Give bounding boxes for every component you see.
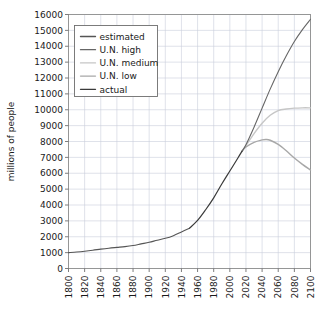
chart-canvas: 0100020003000400050006000700080009000100… — [0, 0, 324, 318]
series-line-u-n-medium — [242, 108, 311, 152]
x-tick-label: 1820 — [80, 275, 90, 298]
x-axis-tick-labels: 1800182018401860188019001920194019601980… — [64, 275, 316, 298]
x-tick-label: 2020 — [241, 275, 251, 298]
y-tick-label: 8000 — [40, 137, 63, 147]
series-line-u-n-high — [242, 19, 311, 151]
x-tick-label: 1940 — [177, 275, 187, 298]
y-tick-label: 4000 — [40, 200, 63, 210]
y-tick-label: 15000 — [34, 26, 63, 36]
y-tick-label: 2000 — [40, 232, 63, 242]
y-tick-label: 10000 — [34, 105, 63, 115]
y-tick-label: 3000 — [40, 216, 63, 226]
y-axis-title-text: millions of people — [6, 101, 16, 181]
y-tick-label: 5000 — [40, 184, 63, 194]
x-tick-label: 2100 — [306, 275, 316, 298]
x-tick-label: 1800 — [64, 275, 74, 298]
x-tick-label: 1980 — [209, 275, 219, 298]
legend-label-u-n-high: U.N. high — [100, 45, 142, 55]
legend-label-estimated: estimated — [100, 32, 145, 42]
y-tick-label: 7000 — [40, 153, 63, 163]
y-axis-title: millions of people — [6, 101, 16, 181]
y-tick-label: 6000 — [40, 168, 63, 178]
x-tick-label: 2060 — [273, 275, 283, 298]
y-tick-label: 9000 — [40, 121, 63, 131]
y-tick-label: 12000 — [34, 73, 63, 83]
x-tick-label: 1840 — [96, 275, 106, 298]
x-tick-label: 1860 — [112, 275, 122, 298]
x-tick-label: 2000 — [225, 275, 235, 298]
series-line-estimated — [69, 228, 190, 252]
y-tick-label: 14000 — [34, 41, 63, 51]
y-tick-label: 11000 — [34, 89, 63, 99]
x-tick-label: 1880 — [128, 275, 138, 298]
legend-label-actual: actual — [100, 85, 128, 95]
y-tick-label: 16000 — [34, 10, 63, 20]
legend-label-u-n-low: U.N. low — [100, 71, 137, 81]
x-tick-label: 2080 — [290, 275, 300, 298]
y-tick-label: 0 — [57, 264, 63, 274]
legend-label-u-n-medium: U.N. medium — [100, 58, 159, 68]
population-projection-chart: 0100020003000400050006000700080009000100… — [0, 0, 324, 318]
x-tick-label: 1960 — [193, 275, 203, 298]
y-axis-tick-labels: 0100020003000400050006000700080009000100… — [34, 10, 63, 274]
series-line-u-n-low — [242, 139, 311, 170]
y-tick-label: 13000 — [34, 57, 63, 67]
x-tick-label: 1920 — [161, 275, 171, 298]
chart-legend: estimatedU.N. highU.N. mediumU.N. lowact… — [75, 26, 159, 97]
x-tick-label: 2040 — [257, 275, 267, 298]
y-tick-label: 1000 — [40, 248, 63, 258]
x-tick-label: 1900 — [144, 275, 154, 298]
